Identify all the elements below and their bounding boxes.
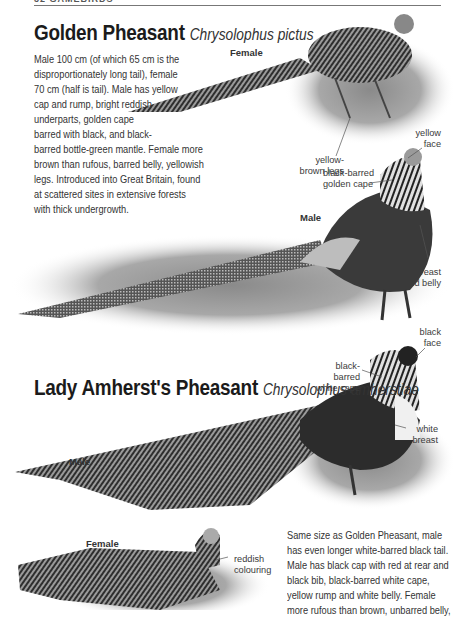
- common-name: Golden Pheasant: [34, 20, 185, 45]
- description-line: has even longer white-barred black tail.: [287, 543, 456, 558]
- species-description-golden-pheasant: Male 100 cm (of which 65 cm is the dispr…: [34, 52, 241, 217]
- species-title-lady-amherst: Lady Amherst's Pheasant Chrysolophus amh…: [34, 375, 419, 401]
- label-black-barred-golden-cape: black-barred golden cape: [323, 168, 374, 190]
- description-line: more rufous than brown, unbarred belly,: [287, 603, 456, 618]
- caption-female: Female: [86, 538, 119, 549]
- description-line: Male has black cap with red at rear and: [287, 558, 456, 573]
- female-body: [308, 27, 412, 83]
- caption-female: Female: [230, 47, 263, 58]
- description-line: cap and rump, bright reddish: [34, 97, 241, 112]
- common-name: Lady Amherst's Pheasant: [34, 375, 258, 400]
- description-line: underparts, golden cape: [34, 112, 241, 127]
- label-black-face: black face: [410, 327, 441, 349]
- description-line: with thick undergrowth.: [34, 202, 241, 217]
- label-black-barred-white-cape: black-barred white cape: [310, 361, 360, 394]
- description-line: black bib, black-barred white cape,: [287, 573, 456, 588]
- amherst-head: [398, 346, 418, 366]
- caption-male: Male: [300, 212, 321, 223]
- description-line: Male 100 cm (of which 65 cm is the: [34, 52, 241, 67]
- caption-male: Male: [69, 456, 90, 467]
- scientific-name: Chrysolophus pictus: [190, 26, 314, 43]
- amherst-female-head: [203, 528, 219, 544]
- description-line: disproportionately long tail), female: [34, 67, 241, 82]
- label-yellow-face: yellow face: [395, 128, 441, 150]
- description-line: barred bottle-green mantle. Female more: [34, 142, 241, 157]
- description-line: at scattered sites in extensive forests: [34, 187, 241, 202]
- description-line: yellow rump and white belly. Female: [287, 588, 456, 603]
- label-white-breast: white breast: [405, 424, 438, 446]
- amherst-tail: [15, 405, 330, 510]
- description-line: Same size as Golden Pheasant, male: [287, 528, 456, 543]
- description-line: 70 cm (half is tail). Male has yellow: [34, 82, 241, 97]
- label-red-breast-and-belly: red breast and belly: [390, 267, 441, 289]
- description-line: brown than rufous, barred belly, yellowi…: [34, 157, 241, 172]
- description-line: legs. Introduced into Great Britain, fou…: [34, 172, 241, 187]
- female-head: [394, 14, 414, 34]
- species-description-lady-amherst: Same size as Golden Pheasant, male has e…: [287, 528, 456, 618]
- description-line: barred with black, and black-: [34, 127, 241, 142]
- lady-amherst-male-image: [15, 346, 455, 510]
- label-reddish-colouring: reddish colouring: [234, 554, 271, 576]
- male-cape: [380, 157, 425, 211]
- lady-amherst-female-image: [18, 528, 270, 610]
- male-head: [404, 148, 422, 166]
- species-title-golden-pheasant: Golden Pheasant Chrysolophus pictus: [34, 20, 314, 46]
